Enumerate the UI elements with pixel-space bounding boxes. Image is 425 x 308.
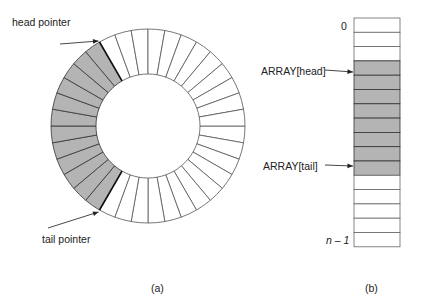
array-cell — [354, 18, 400, 32]
array-cell — [354, 161, 400, 175]
array-index-zero: 0 — [341, 20, 347, 32]
array-cell — [354, 104, 400, 118]
head-pointer-label: head pointer — [12, 16, 70, 28]
tail-pointer-label: tail pointer — [42, 233, 90, 245]
array-cell — [354, 132, 400, 146]
array-cell — [354, 61, 400, 75]
caption-a: (a) — [151, 282, 164, 294]
array-head-arrow-head-icon — [347, 69, 353, 74]
array-tail-arrow-head-icon — [347, 163, 353, 168]
head-pointer-arrow — [60, 41, 99, 44]
array-cell — [354, 32, 400, 46]
array-cell — [354, 118, 400, 132]
array-cell — [354, 233, 400, 247]
array-index-last: n – 1 — [326, 234, 349, 246]
array-tail-label: ARRAY[tail] — [263, 160, 318, 172]
array-cell — [354, 218, 400, 232]
circular-buffer-ring — [0, 0, 425, 308]
array-cell — [354, 190, 400, 204]
array-cell — [354, 90, 400, 104]
caption-b: (b) — [365, 282, 378, 294]
array-cell — [354, 175, 400, 189]
tail-pointer-arrow — [48, 212, 99, 228]
array-cell — [354, 47, 400, 61]
array-cell — [354, 204, 400, 218]
array-cell — [354, 147, 400, 161]
tail-pointer-arrow-head-icon — [93, 211, 99, 215]
array-head-label: ARRAY[head] — [261, 65, 326, 77]
array-cell — [354, 75, 400, 89]
